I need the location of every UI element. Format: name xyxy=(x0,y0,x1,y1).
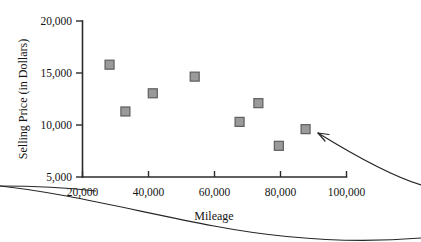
y-tick-label-15000: 15,000 xyxy=(40,67,72,80)
data-point-marker xyxy=(148,89,157,98)
data-point-markers xyxy=(105,60,310,150)
data-point-marker xyxy=(105,60,114,69)
x-tick-label-80000: 80,000 xyxy=(265,186,297,199)
x-tick-label-60000: 60,000 xyxy=(199,186,231,199)
y-tick-label-5000: 5,000 xyxy=(46,171,72,184)
x-axis-title: Mileage xyxy=(194,209,233,223)
data-point-marker xyxy=(274,141,283,150)
x-tick-label-40000: 40,000 xyxy=(133,186,165,199)
y-tick-label-20000: 20,000 xyxy=(40,15,72,28)
plot-canvas: 20,000 15,000 10,000 5,000 20,000 40,000… xyxy=(0,0,421,242)
data-point-marker xyxy=(235,117,244,126)
scatter-plot-figure: 20,000 15,000 10,000 5,000 20,000 40,000… xyxy=(0,0,421,242)
data-point-marker xyxy=(254,99,263,108)
data-point-marker xyxy=(301,125,310,134)
x-tick-label-100000: 100,000 xyxy=(328,186,366,199)
data-point-marker xyxy=(190,72,199,81)
y-axis-title: Selling Price (in Dollars) xyxy=(16,39,30,159)
data-point-marker xyxy=(121,107,130,116)
y-tick-label-10000: 10,000 xyxy=(40,119,72,132)
